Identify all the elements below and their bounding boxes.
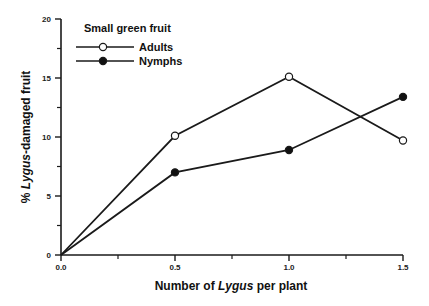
axis-title-part: Lygus: [19, 154, 33, 190]
line-chart: 051015200.00.51.01.5 Small green fruit A…: [0, 0, 429, 306]
legend-title: Small green fruit: [84, 22, 171, 34]
x-tick-label: 0.0: [55, 263, 67, 272]
axes: 051015200.00.51.01.5: [42, 15, 409, 272]
axis-title-part: %: [19, 189, 33, 203]
data-point-adults: [171, 132, 178, 139]
legend-label-nymphs: Nymphs: [139, 55, 182, 67]
y-tick-label: 5: [47, 192, 52, 201]
legend-marker-nymphs: [99, 57, 106, 64]
y-tick-label: 20: [42, 15, 51, 24]
legend-label-adults: Adults: [139, 41, 173, 53]
series-line-nymphs: [61, 97, 403, 255]
data-point-nymphs: [171, 169, 178, 176]
series-line-adults: [61, 77, 403, 255]
y-tick-label: 15: [42, 74, 51, 83]
x-tick-label: 1.5: [397, 263, 409, 272]
data-point-adults: [399, 137, 406, 144]
x-axis-title: Number of Lygus per plant: [155, 279, 308, 293]
x-tick-label: 1.0: [283, 263, 295, 272]
y-axis-title: % Lygus-damaged fruit: [19, 71, 33, 204]
y-tick-label: 10: [42, 133, 51, 142]
axis-title-part: per plant: [253, 279, 307, 293]
axis-title-part: Number of: [155, 279, 218, 293]
legend: Small green fruit AdultsNymphs: [76, 22, 182, 67]
data-point-nymphs: [285, 146, 292, 153]
x-tick-label: 0.5: [169, 263, 181, 272]
axis-title-part: Lygus: [218, 279, 254, 293]
legend-marker-adults: [99, 43, 106, 50]
series-group: [61, 73, 407, 255]
data-point-adults: [285, 73, 292, 80]
axis-title-part: -damaged fruit: [19, 71, 33, 154]
data-point-nymphs: [399, 93, 406, 100]
y-tick-label: 0: [47, 251, 52, 260]
